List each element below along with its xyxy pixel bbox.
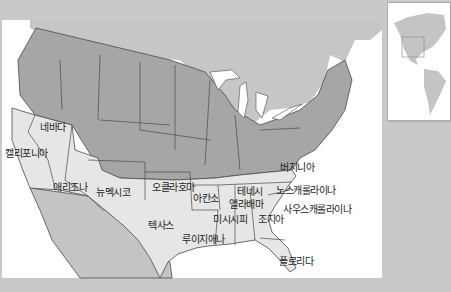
state-label-georgia: 조지아 [258, 214, 284, 225]
state-label-mississippi: 미시시피 [213, 214, 247, 225]
state-label-nevada: 네바다 [40, 122, 66, 133]
state-label-texas: 텍사스 [148, 220, 174, 231]
state-label-arkansas: 아칸소 [193, 193, 219, 204]
state-label-tennessee: 테네시 [237, 186, 263, 197]
state-label-new-mexico: 뉴멕시코 [96, 187, 130, 198]
state-label-california: 캘리포니아 [5, 148, 48, 159]
americas-locator-icon [388, 3, 450, 120]
state-label-north-carolina: 노스캐롤라이나 [276, 185, 336, 196]
state-label-louisiana: 루이지애나 [182, 234, 225, 245]
state-label-virginia: 버지니아 [280, 162, 314, 173]
locator-inset-map [387, 2, 451, 121]
state-label-florida: 플로리다 [279, 256, 313, 267]
state-label-alabama: 앨라배마 [229, 199, 263, 210]
state-label-arizona: 애리조나 [53, 182, 87, 193]
state-label-south-carolina: 사우스캐롤라이나 [283, 204, 351, 215]
state-label-oklahoma: 오클라호마 [152, 182, 195, 193]
